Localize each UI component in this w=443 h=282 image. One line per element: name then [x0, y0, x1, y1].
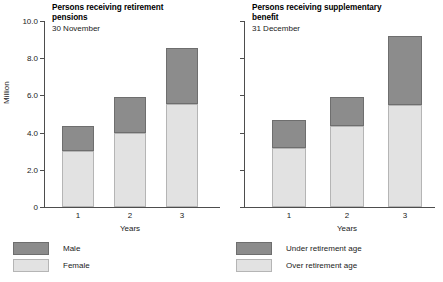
left-legend-swatch-dark [13, 242, 49, 255]
left-x-tick-label-3: 3 [180, 211, 184, 220]
left-legend-label-0: Male [63, 244, 80, 253]
right-legend-item-1: Over retirement age [236, 257, 362, 274]
left-y-axis-line [44, 21, 45, 208]
left-y-axis-title: Million [2, 81, 11, 104]
right-bar-3-segment-upper [388, 36, 422, 105]
right-bar-1-segment-upper [272, 120, 306, 149]
right-legend-label-0: Under retirement age [286, 244, 362, 253]
left-bar-3 [166, 48, 198, 207]
left-bar-2-segment-upper [114, 97, 146, 132]
left-bar-2-segment-lower [114, 133, 146, 207]
left-x-tick-label-2: 2 [128, 211, 132, 220]
right-y-tick-5 [240, 207, 244, 208]
left-x-axis-line [44, 207, 220, 208]
left-y-tick-0 [40, 21, 44, 22]
left-x-tick-label-1: 1 [76, 211, 80, 220]
left-bar-1-segment-lower [62, 151, 94, 207]
left-legend-label-1: Female [63, 261, 90, 270]
left-legend-item-0: Male [13, 240, 90, 257]
chart-page: Persons receiving retirement pensions 30… [0, 0, 443, 282]
left-plot-area: 10.08.06.04.02.00123Years [44, 21, 219, 207]
left-bar-3-segment-lower [166, 104, 198, 207]
left-x-axis-title: Years [120, 224, 140, 233]
right-y-tick-3 [240, 133, 244, 134]
right-y-tick-4 [240, 170, 244, 171]
right-plot-area: 123Years [244, 21, 434, 207]
left-y-tick-3 [40, 133, 44, 134]
right-bar-3 [388, 36, 422, 207]
left-y-tick-4 [40, 170, 44, 171]
right-x-tick-label-2: 2 [345, 211, 349, 220]
left-y-tick-label-4: 2.0 [27, 165, 38, 174]
right-y-axis-line [244, 21, 245, 208]
right-legend-label-1: Over retirement age [286, 261, 357, 270]
right-bar-2 [330, 97, 364, 207]
left-y-tick-5 [40, 207, 44, 208]
left-y-tick-1 [40, 58, 44, 59]
chart-panel-supplementary-benefit: Persons receiving supplementary benefit … [222, 0, 443, 282]
right-legend-item-0: Under retirement age [236, 240, 362, 257]
right-legend: Under retirement ageOver retirement age [236, 240, 362, 274]
right-x-axis-line [244, 207, 435, 208]
right-bar-2-segment-upper [330, 97, 364, 126]
left-y-tick-label-5: 0 [34, 203, 38, 212]
left-bar-1-segment-upper [62, 126, 94, 151]
right-bar-1 [272, 120, 306, 207]
right-x-tick-label-3: 3 [403, 211, 407, 220]
right-legend-swatch-dark [236, 242, 272, 255]
left-legend-swatch-light [13, 259, 49, 272]
right-bar-3-segment-lower [388, 105, 422, 207]
right-y-tick-2 [240, 95, 244, 96]
left-y-tick-label-0: 10.0 [22, 17, 38, 26]
right-bar-2-segment-lower [330, 126, 364, 207]
right-x-tick-label-1: 1 [287, 211, 291, 220]
left-bar-1 [62, 126, 94, 207]
left-legend: MaleFemale [13, 240, 90, 274]
right-y-tick-1 [240, 58, 244, 59]
left-legend-item-1: Female [13, 257, 90, 274]
left-bar-3-segment-upper [166, 48, 198, 104]
right-legend-swatch-light [236, 259, 272, 272]
right-y-tick-0 [240, 21, 244, 22]
right-x-axis-title: Years [337, 224, 357, 233]
left-y-tick-label-2: 6.0 [27, 91, 38, 100]
left-bar-2 [114, 97, 146, 207]
left-y-tick-label-3: 4.0 [27, 128, 38, 137]
left-y-tick-label-1: 8.0 [27, 54, 38, 63]
left-y-tick-2 [40, 95, 44, 96]
chart-panel-retirement-pensions: Persons receiving retirement pensions 30… [0, 0, 221, 282]
right-bar-1-segment-lower [272, 148, 306, 207]
